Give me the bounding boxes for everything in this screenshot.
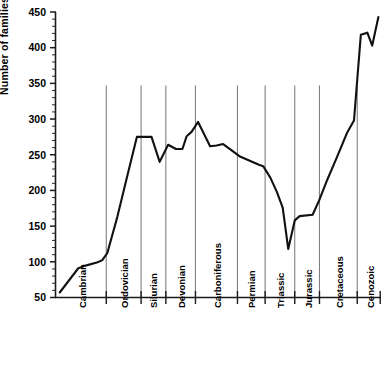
y-axis-tick-label: 250 — [28, 149, 46, 161]
y-axis-tick-label: 450 — [28, 6, 46, 18]
y-axis-tick-label: 300 — [28, 113, 46, 125]
y-axis-tick-label: 150 — [28, 220, 46, 232]
y-axis-title: Number of families — [0, 0, 10, 95]
x-axis-period-label: Cretaceous — [334, 256, 345, 308]
x-axis-period-label: Triassic — [275, 273, 286, 308]
x-axis-period-label: Cambrian — [77, 264, 88, 308]
y-axis-tick-label: 350 — [28, 77, 46, 89]
x-axis-period-label: Devonian — [176, 265, 187, 308]
x-axis-period-label: Jurassic — [303, 269, 314, 308]
y-axis-tick-label: 200 — [28, 184, 46, 196]
y-axis-tick-label: 100 — [28, 256, 46, 268]
x-axis-period-label: Carboniferous — [212, 243, 223, 308]
x-axis-period-label: Ordovician — [119, 258, 130, 308]
line-chart-plot: 50100150200250300350400450 CambrianOrdov… — [0, 0, 388, 386]
y-axis-tick-label: 50 — [34, 291, 46, 303]
y-axis-tick-label: 400 — [28, 41, 46, 53]
x-axis-period-label: Permian — [246, 270, 257, 308]
x-axis-period-label: Cenozoic — [365, 266, 376, 308]
y-axis-tick-labels: 50100150200250300350400450 — [28, 6, 46, 304]
chart-root: Number of families 501001502002503003504… — [0, 0, 388, 386]
period-boundary-lines — [106, 86, 357, 298]
x-axis-period-label: Silurian — [148, 273, 159, 308]
